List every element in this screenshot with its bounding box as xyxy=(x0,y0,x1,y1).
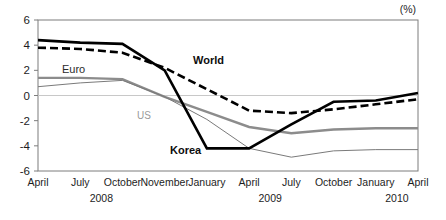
x-category-label: January xyxy=(357,176,395,188)
chart-screenshot: (%) 6420-2-4-6 AprilJulyOctoberNovemberJ… xyxy=(0,0,446,220)
x-category-label: January xyxy=(188,176,226,188)
y-tick-label: -2 xyxy=(20,115,30,127)
unit-label: (%) xyxy=(400,3,416,15)
x-category-label: April xyxy=(239,176,260,188)
x-axis: AprilJulyOctoberNovemberJanuaryAprilJuly… xyxy=(27,176,428,188)
x-category-label: April xyxy=(407,176,428,188)
x-category-label: October xyxy=(315,176,353,188)
series-label-world: World xyxy=(193,54,224,66)
year-label: 2010 xyxy=(385,192,409,204)
x-category-label: October xyxy=(104,176,142,188)
y-tick-label: 4 xyxy=(24,39,31,51)
x-category-label: April xyxy=(27,176,48,188)
y-tick-label: -4 xyxy=(20,140,31,152)
series-label-korea: Korea xyxy=(170,144,202,156)
x-category-label: July xyxy=(282,176,301,188)
series-label-us: US xyxy=(137,110,151,121)
x-category-label: November xyxy=(140,176,189,188)
series-line-world xyxy=(38,48,418,113)
series-label-euro: Euro xyxy=(62,63,85,75)
series-lines xyxy=(38,40,418,157)
y-tick-label: 0 xyxy=(24,90,30,102)
year-label: 2009 xyxy=(259,192,283,204)
y-tick-label: 6 xyxy=(24,14,30,26)
year-label: 2008 xyxy=(90,192,114,204)
y-tick-label: 2 xyxy=(24,64,30,76)
y-axis: 6420-2-4-6 xyxy=(20,14,38,177)
year-axis-labels: 200820092010 xyxy=(90,192,409,204)
x-category-label: July xyxy=(71,176,90,188)
line-chart: (%) 6420-2-4-6 AprilJulyOctoberNovemberJ… xyxy=(0,0,446,220)
series-line-korea xyxy=(38,40,418,148)
